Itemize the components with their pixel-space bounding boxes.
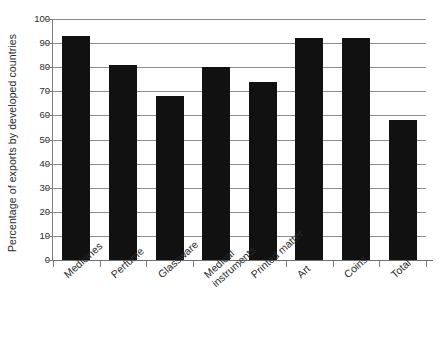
x-tick-mark <box>53 261 54 267</box>
y-axis-tick-labels: 0102030405060708090100 <box>24 0 50 361</box>
y-tick-mark <box>45 212 53 213</box>
x-tick-mark <box>193 261 194 267</box>
x-tick-mark <box>333 261 334 267</box>
y-tick-mark <box>45 236 53 237</box>
x-tick-mark <box>286 261 287 267</box>
bar <box>249 82 277 260</box>
x-tick-mark <box>240 261 241 267</box>
y-axis-title: Percentage of exports by developed count… <box>0 0 24 285</box>
bar <box>202 67 230 260</box>
y-tick-mark <box>45 140 53 141</box>
bar <box>342 38 370 260</box>
bar <box>295 38 323 260</box>
bar <box>156 96 184 260</box>
y-axis-title-text: Percentage of exports by developed count… <box>6 33 18 251</box>
y-tick-mark <box>45 164 53 165</box>
y-tick-mark <box>45 260 53 261</box>
y-tick-mark <box>45 43 53 44</box>
y-tick-mark <box>45 19 53 20</box>
y-tick-mark <box>45 67 53 68</box>
y-tick-mark <box>45 115 53 116</box>
x-tick-mark <box>426 261 427 267</box>
y-tick-mark <box>45 91 53 92</box>
gridline <box>53 19 426 20</box>
x-tick-mark <box>146 261 147 267</box>
bar <box>109 65 137 260</box>
x-tick-label: Art <box>295 263 313 281</box>
bar <box>62 36 90 260</box>
x-tick-mark <box>100 261 101 267</box>
x-tick-mark <box>379 261 380 267</box>
plot-area <box>53 19 426 260</box>
bar-chart: Percentage of exports by developed count… <box>0 0 440 361</box>
y-tick-mark <box>45 188 53 189</box>
bar <box>389 120 417 260</box>
